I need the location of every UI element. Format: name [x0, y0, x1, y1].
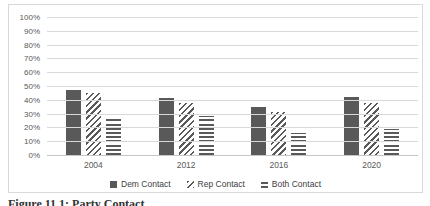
legend-label: Rep Contact: [198, 179, 245, 189]
y-tick-label: 0%: [28, 151, 40, 160]
x-axis-labels: 2004201220162020: [47, 160, 418, 170]
legend-label: Both Contact: [272, 179, 321, 189]
y-axis-labels: 0%10%20%30%40%50%60%70%80%90%100%: [10, 17, 43, 155]
bar-rep-contact: [364, 103, 379, 155]
bar-both-contact: [106, 118, 121, 155]
legend: Dem ContactRep ContactBoth Contact: [9, 179, 422, 189]
bar-dem-contact: [344, 97, 359, 155]
gridline: [47, 58, 418, 59]
y-tick-label: 80%: [24, 40, 40, 49]
gridline: [47, 17, 418, 18]
x-tick-label: 2004: [47, 160, 140, 170]
figure-caption: Figure 11.1: Party Contact: [8, 197, 144, 206]
y-tick-label: 10%: [24, 137, 40, 146]
gridline: [47, 45, 418, 46]
x-tick-label: 2020: [325, 160, 418, 170]
gridline: [47, 100, 418, 101]
y-tick-label: 90%: [24, 26, 40, 35]
gridline: [47, 127, 418, 128]
gridline: [47, 86, 418, 87]
legend-item-both-contact: Both Contact: [261, 179, 321, 189]
bar-rep-contact: [179, 103, 194, 155]
legend-label: Dem Contact: [121, 179, 171, 189]
bar-rep-contact: [271, 112, 286, 155]
chart-panel: 0%10%20%30%40%50%60%70%80%90%100% 200420…: [8, 4, 423, 193]
bar-rep-contact: [86, 93, 101, 155]
legend-item-rep-contact: Rep Contact: [187, 179, 245, 189]
horizontal-swatch-icon: [261, 181, 268, 188]
gridline: [47, 114, 418, 115]
x-tick-label: 2016: [233, 160, 326, 170]
y-tick-label: 30%: [24, 109, 40, 118]
gridline: [47, 31, 418, 32]
y-tick-label: 100%: [20, 13, 40, 22]
diagonal-swatch-icon: [187, 181, 194, 188]
y-tick-label: 70%: [24, 54, 40, 63]
bar-both-contact: [291, 133, 306, 155]
gridline: [47, 72, 418, 73]
y-tick-label: 60%: [24, 68, 40, 77]
y-tick-label: 20%: [24, 123, 40, 132]
bar-both-contact: [199, 116, 214, 155]
gridline: [47, 141, 418, 142]
y-tick-label: 40%: [24, 95, 40, 104]
x-tick-label: 2012: [140, 160, 233, 170]
solid-swatch-icon: [110, 181, 117, 188]
y-tick-label: 50%: [24, 82, 40, 91]
plot-area: [47, 17, 418, 156]
legend-item-dem-contact: Dem Contact: [110, 179, 171, 189]
